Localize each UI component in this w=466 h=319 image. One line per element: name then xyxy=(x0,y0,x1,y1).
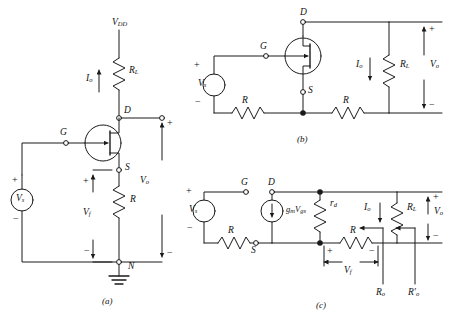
b-gate-terminal xyxy=(264,54,269,59)
a-r-label: R xyxy=(130,195,136,205)
a-gate-label: G xyxy=(60,128,67,138)
c-rl-resistor xyxy=(391,203,403,235)
b-r-left-label: R xyxy=(242,96,248,106)
panel-c-caption: (c) xyxy=(316,300,326,310)
b-vs-plus-sign: + xyxy=(194,60,200,70)
a-vf-label: Vf xyxy=(83,208,91,218)
a-vdd-label: VDD xyxy=(112,18,127,28)
b-vs-minus-sign: − xyxy=(195,97,201,107)
panel-b-caption: (b) xyxy=(297,134,308,144)
c-ro-label: Ro xyxy=(376,288,385,298)
b-rl-label: RL xyxy=(400,60,409,70)
a-io-label: Io xyxy=(86,74,92,84)
c-gate-terminal xyxy=(244,190,249,195)
a-vo-label: Vo xyxy=(140,176,149,186)
c-io-label: Io xyxy=(364,203,370,213)
c-vf-plus-sign: + xyxy=(327,246,333,256)
c-drain-terminal xyxy=(270,190,275,195)
b-io-label: Io xyxy=(356,60,362,70)
c-dependent-source-label: gmVgs xyxy=(286,205,306,215)
a-gate-to-source-wire xyxy=(22,143,64,175)
a-vs-minus-sign: − xyxy=(13,214,19,224)
a-rl-label: RL xyxy=(129,66,138,76)
figure-canvas: VDD Io RL D G S N R Vs Vf Vo + − + − + −… xyxy=(0,0,466,319)
c-vo-minus-sign: − xyxy=(433,231,439,241)
a-node-n-terminal xyxy=(117,260,122,265)
b-vo-plus-sign: + xyxy=(429,24,435,34)
c-rd-label: rd xyxy=(330,199,337,209)
a-gate-terminal xyxy=(64,141,69,146)
c-vo-label: Vo xyxy=(434,207,443,217)
b-drain-label: D xyxy=(300,8,307,18)
b-r-right-label: R xyxy=(343,96,349,106)
c-r-left-label: R xyxy=(228,226,234,236)
c-r-left-resistor xyxy=(218,237,250,249)
a-vs-label: Vs xyxy=(16,194,24,204)
c-gate-label: G xyxy=(241,178,248,188)
c-vs-minus-sign: − xyxy=(187,223,193,233)
a-vo-plus-sign: + xyxy=(167,118,173,128)
c-drain-label: D xyxy=(268,178,275,188)
a-vf-minus-sign: − xyxy=(84,246,90,256)
a-rl-resistor xyxy=(113,58,125,90)
circuit-diagram-svg xyxy=(0,0,466,319)
c-source-label: S xyxy=(251,246,256,256)
a-out-top-terminal xyxy=(160,116,165,121)
a-node-n-label: N xyxy=(128,262,134,272)
c-vo-plus-sign: + xyxy=(433,192,439,202)
c-vf-minus-sign: − xyxy=(369,246,375,256)
b-drain-terminal xyxy=(301,20,306,25)
b-source-terminal xyxy=(301,90,306,95)
panel-a-caption: (a) xyxy=(102,296,113,306)
c-r-mid-resistor xyxy=(340,237,372,249)
c-vs-label: Vs xyxy=(189,205,197,215)
b-vo-minus-sign: − xyxy=(429,100,435,110)
b-gate-to-source xyxy=(214,56,264,74)
b-vo-label: Vo xyxy=(430,60,439,70)
a-source-terminal xyxy=(117,168,122,173)
b-rl-resistor xyxy=(383,55,395,87)
c-rd-resistor xyxy=(314,200,326,232)
b-vs-label: Vs xyxy=(198,79,206,89)
b-gate-label: G xyxy=(260,42,267,52)
c-ro-prime-label: R′o xyxy=(408,288,419,298)
a-r-resistor xyxy=(113,186,125,218)
a-vf-plus-sign: + xyxy=(83,176,89,186)
a-vo-minus-sign: − xyxy=(167,248,173,258)
b-jfet-drain-lead xyxy=(303,36,310,46)
b-r-right-resistor xyxy=(332,107,364,119)
c-r-mid-label: R xyxy=(350,226,356,236)
b-r-left-resistor xyxy=(232,107,264,119)
c-gate-to-source xyxy=(204,192,244,200)
b-source-label: S xyxy=(308,86,313,96)
c-rl-label: RL xyxy=(407,203,416,213)
a-drain-label: D xyxy=(124,106,131,116)
a-source-label: S xyxy=(125,163,130,173)
c-vf-label: Vf xyxy=(344,266,352,276)
c-vs-plus-sign: + xyxy=(186,186,192,196)
a-vs-bottom-lead xyxy=(22,211,119,262)
a-vs-plus-sign: + xyxy=(12,175,18,185)
